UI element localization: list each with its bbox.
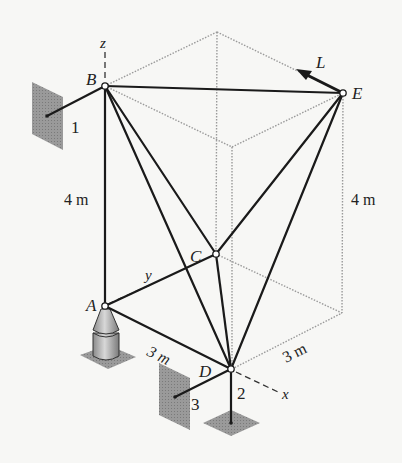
member-BE xyxy=(105,86,343,93)
dim-height-left: 4 m xyxy=(64,191,89,208)
joint-C xyxy=(213,251,219,257)
joint-D xyxy=(228,366,234,372)
joint-label-A: A xyxy=(85,296,97,315)
axis-label-x: x xyxy=(281,386,289,402)
member-DE xyxy=(231,93,343,369)
support-cone xyxy=(93,309,119,334)
load-arrow-L xyxy=(296,69,341,92)
coordinate-axes xyxy=(105,52,278,392)
dim-height-right: 4 m xyxy=(351,191,376,208)
axis-label-y: y xyxy=(143,267,152,283)
box-edge-B-backtop xyxy=(105,32,217,86)
joint-label-B: B xyxy=(86,70,97,89)
box-edge-back-vertical xyxy=(216,32,217,254)
arrowhead-icon xyxy=(296,69,312,80)
joint-B xyxy=(102,83,108,89)
joint-label-D: D xyxy=(198,362,212,381)
member-BC xyxy=(105,86,216,254)
link-label-2: 2 xyxy=(237,384,246,403)
link-label-3: 3 xyxy=(191,395,200,414)
box-edge-fronttop-E xyxy=(232,93,343,147)
truss-diagram: z y x B E C A D 1 2 3 L 4 m 4 m 3 m 3 m xyxy=(0,0,402,463)
truss-members xyxy=(105,86,343,369)
member-BD xyxy=(105,86,231,369)
axis-label-z: z xyxy=(99,35,106,51)
joint-label-E: E xyxy=(351,84,363,103)
link-label-1: 1 xyxy=(71,118,80,137)
load-label-L: L xyxy=(315,53,325,72)
joint-label-C: C xyxy=(190,247,202,266)
link-1-support xyxy=(32,82,105,150)
box-edge-E-vertical xyxy=(342,93,343,313)
member-CE xyxy=(216,93,343,254)
joint-E xyxy=(340,90,346,96)
dim-AD: 3 m xyxy=(144,342,174,368)
box-edge-C-corner xyxy=(216,254,342,313)
joint-A xyxy=(102,303,108,309)
